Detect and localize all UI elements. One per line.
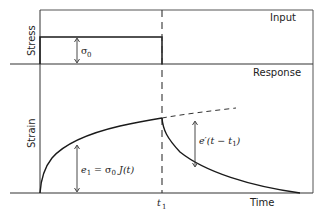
e1-arrow	[75, 145, 80, 192]
recovery-arrow	[193, 121, 198, 167]
e1-equation-label: e1 = σ0 J(t)	[81, 164, 134, 177]
svg-text:e1 = σ0 J(t): e1 = σ0 J(t)	[81, 164, 134, 177]
creep-recovery-diagram: Input Response Stress Strain Time t 1 σ …	[0, 0, 326, 217]
t1-tick-label: t 1	[157, 197, 166, 211]
sigma0-label: σ 0	[81, 45, 91, 59]
svg-text:0: 0	[87, 51, 91, 59]
strain-axis-label: Strain	[26, 118, 37, 148]
stress-axis-label: Stress	[26, 25, 37, 56]
sigma0-arrow	[75, 38, 80, 63]
creep-curve	[40, 118, 162, 193]
stress-step-line	[40, 37, 162, 64]
svg-text:e′(t − t1): e′(t − t1)	[199, 135, 241, 148]
response-title: Response	[253, 67, 301, 78]
svg-text:t: t	[157, 197, 161, 208]
creep-extension-dashed	[162, 108, 236, 118]
input-title: Input	[270, 12, 296, 23]
time-axis-label: Time	[249, 197, 274, 208]
svg-text:1: 1	[162, 203, 166, 211]
recovery-curve	[162, 118, 300, 193]
recovery-label: e′(t − t1)	[199, 135, 241, 148]
